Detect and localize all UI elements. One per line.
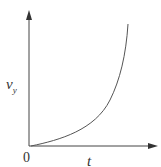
x-axis-arrow-icon (148, 143, 158, 149)
diagram-canvas (0, 0, 161, 167)
y-axis-arrow-icon (26, 10, 32, 20)
velocity-time-diagram: vy 0 t (0, 0, 161, 167)
y-axis-label-main: v (6, 76, 13, 92)
velocity-curve (31, 24, 128, 146)
y-axis-label-subscript: y (13, 85, 17, 95)
x-axis-label: t (87, 153, 91, 167)
origin-label: 0 (23, 150, 30, 166)
y-axis-label: vy (6, 76, 17, 93)
